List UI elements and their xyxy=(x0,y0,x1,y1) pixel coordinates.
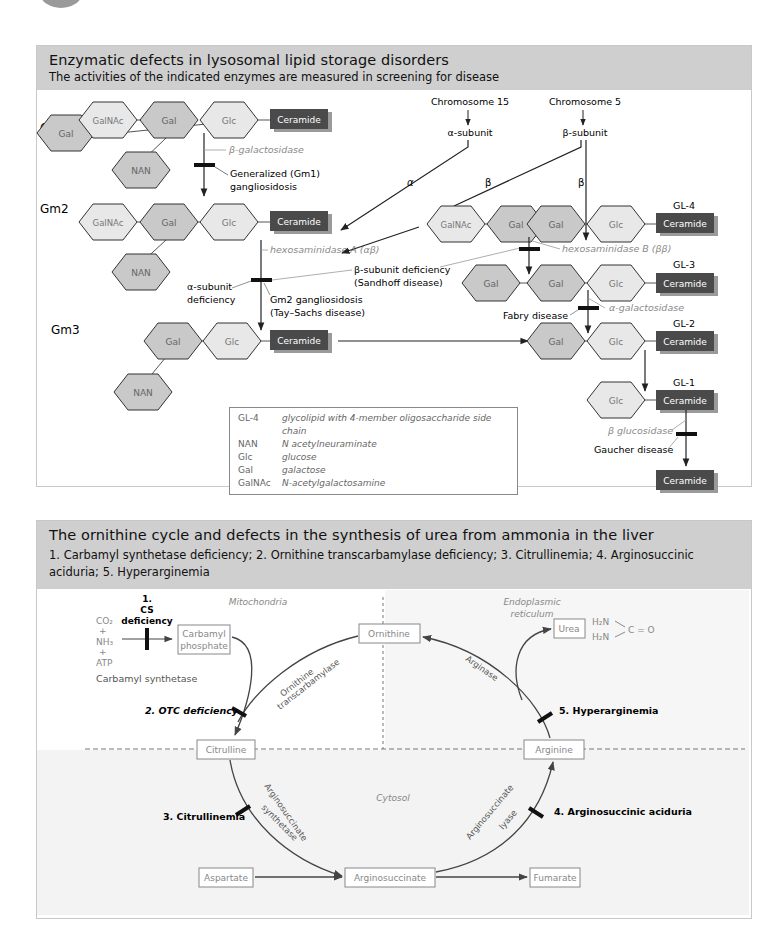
defect-bar xyxy=(145,628,149,650)
svg-text:+: + xyxy=(99,626,107,636)
svg-text:Citrulline: Citrulline xyxy=(206,745,247,755)
carbamyl-phosphate-box: Carbamyl phosphate xyxy=(178,625,230,654)
arginosuccinate-box: Arginosuccinate xyxy=(345,868,435,887)
fumarate-box: Fumarate xyxy=(530,868,580,887)
svg-text:CO₂: CO₂ xyxy=(96,616,113,626)
svg-text:H₂N: H₂N xyxy=(592,617,609,627)
svg-text:NH₃: NH₃ xyxy=(96,637,114,647)
citrulline-box: Citrulline xyxy=(197,740,255,759)
ornithine-box: Ornithine xyxy=(359,624,420,643)
svg-text:Ornithine: Ornithine xyxy=(368,629,410,639)
svg-text:Arginosuccinate: Arginosuccinate xyxy=(354,873,427,883)
arginosuccinic-aciduria-label: 4. Arginosuccinic aciduria xyxy=(554,806,692,817)
svg-text:+: + xyxy=(99,647,107,657)
carbamyl-reactants: CO₂ + NH₃ + ATP xyxy=(96,616,114,668)
carbamyl-synthetase-label: Carbamyl synthetase xyxy=(96,673,197,684)
mitochondria-label: Mitochondria xyxy=(229,597,288,607)
urea-cycle-canvas: Mitochondria Endoplasmic reticulum Cytos… xyxy=(0,0,766,948)
svg-text:Carbamyl: Carbamyl xyxy=(182,629,225,639)
otc-deficiency-label: 2. OTC deficiency xyxy=(145,705,239,716)
cytosol-label: Cytosol xyxy=(376,793,410,803)
cytosol-region xyxy=(37,750,749,915)
cs-defect-line1: 1. xyxy=(142,594,152,604)
svg-text:Arginine: Arginine xyxy=(535,745,573,755)
aspartate-box: Aspartate xyxy=(199,868,253,887)
svg-text:phosphate: phosphate xyxy=(180,641,228,651)
er-label-line1: Endoplasmic xyxy=(503,597,560,607)
svg-text:C = O: C = O xyxy=(628,625,655,635)
svg-text:Urea: Urea xyxy=(558,624,579,634)
arginine-box: Arginine xyxy=(524,740,584,759)
cs-defect-line3: deficiency xyxy=(121,616,172,626)
urea-box: Urea xyxy=(554,619,585,638)
svg-text:Aspartate: Aspartate xyxy=(204,873,248,883)
svg-text:Fumarate: Fumarate xyxy=(534,873,577,883)
cs-defect-line2: CS xyxy=(140,605,153,615)
svg-text:H₂N: H₂N xyxy=(592,632,609,642)
citrullinemia-label: 3. Citrullinemia xyxy=(163,811,245,822)
hyperarginemia-label: 5. Hyperarginemia xyxy=(559,705,659,716)
er-label-line2: reticulum xyxy=(511,609,554,619)
svg-text:ATP: ATP xyxy=(96,658,113,668)
er-region xyxy=(385,590,749,750)
